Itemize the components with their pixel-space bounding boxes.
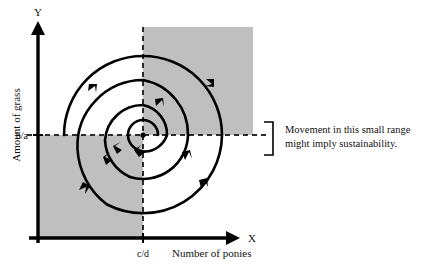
- x-axis-symbol: X: [248, 232, 256, 244]
- y-axis-arrowhead-icon: [31, 21, 45, 35]
- arrowhead-icon: [88, 84, 97, 93]
- shaded-region-upper-right: [143, 27, 253, 135]
- y-tick-label: b/a: [16, 130, 29, 141]
- phase-diagram-canvas: Y X Amount of grass Number of ponies b/a…: [0, 0, 423, 270]
- annotation-line-1: Movement in this small range: [285, 124, 411, 135]
- y-axis-symbol: Y: [34, 6, 42, 18]
- phase-diagram-figure: Y X Amount of grass Number of ponies b/a…: [0, 0, 423, 270]
- annotation-bracket-icon: [264, 122, 273, 155]
- y-axis-label: Amount of grass: [10, 88, 22, 161]
- equilibrium-point-marker: [140, 132, 145, 137]
- x-tick-label: c/d: [137, 248, 149, 259]
- annotation-line-2: might imply sustainability.: [285, 138, 397, 149]
- x-axis-arrowhead-icon: [226, 231, 240, 245]
- x-axis-label: Number of ponies: [172, 247, 251, 259]
